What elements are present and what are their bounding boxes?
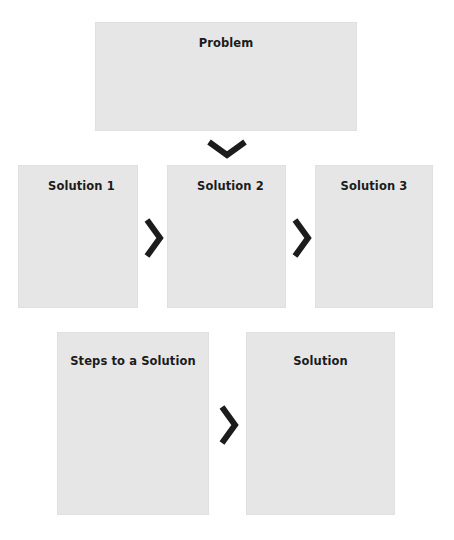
solution-1-box: Solution 1 [18, 165, 138, 308]
solution-3-box: Solution 3 [315, 165, 433, 308]
chevron-right-icon [291, 217, 312, 259]
steps-label: Steps to a Solution [57, 354, 209, 368]
chevron-right-icon [218, 404, 240, 446]
steps-box: Steps to a Solution [57, 332, 209, 515]
solution-1-label: Solution 1 [48, 179, 138, 193]
solution-3-label: Solution 3 [315, 179, 433, 193]
chevron-right-icon [143, 217, 164, 259]
solution-label: Solution [246, 354, 395, 368]
problem-box: Problem [95, 22, 357, 131]
solution-2-label: Solution 2 [197, 179, 286, 193]
solution-box: Solution [246, 332, 395, 515]
problem-label: Problem [95, 36, 357, 50]
solution-2-box: Solution 2 [167, 165, 286, 308]
chevron-down-icon [206, 138, 248, 160]
